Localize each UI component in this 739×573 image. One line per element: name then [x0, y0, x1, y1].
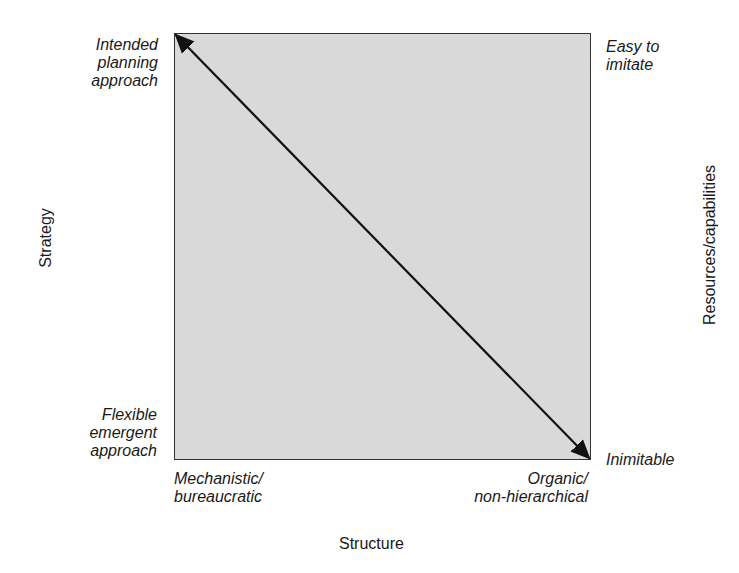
- label-line: imitate: [606, 56, 659, 74]
- label-line: Inimitable: [606, 451, 674, 469]
- label-mechanistic-bureaucratic: Mechanistic/ bureaucratic: [174, 470, 263, 506]
- label-organic-non-hierarchical: Organic/ non-hierarchical: [474, 470, 588, 506]
- axis-label-strategy: Strategy: [37, 198, 55, 278]
- label-line: approach: [91, 72, 158, 90]
- label-line: approach: [89, 442, 157, 460]
- label-intended-planning: Intended planning approach: [91, 36, 158, 90]
- label-line: Intended: [91, 36, 158, 54]
- diagram-box: [174, 33, 591, 460]
- label-inimitable: Inimitable: [606, 451, 674, 469]
- axis-label-resources-capabilities: Resources/capabilities: [701, 155, 719, 335]
- label-line: emergent: [89, 424, 157, 442]
- axis-label-structure: Structure: [339, 535, 404, 553]
- label-line: bureaucratic: [174, 488, 263, 506]
- label-line: Mechanistic/: [174, 470, 263, 488]
- label-line: Organic/: [474, 470, 588, 488]
- label-line: Easy to: [606, 38, 659, 56]
- label-flexible-emergent: Flexible emergent approach: [89, 406, 157, 460]
- label-line: Flexible: [89, 406, 157, 424]
- label-line: non-hierarchical: [474, 488, 588, 506]
- label-line: planning: [91, 54, 158, 72]
- label-easy-to-imitate: Easy to imitate: [606, 38, 659, 74]
